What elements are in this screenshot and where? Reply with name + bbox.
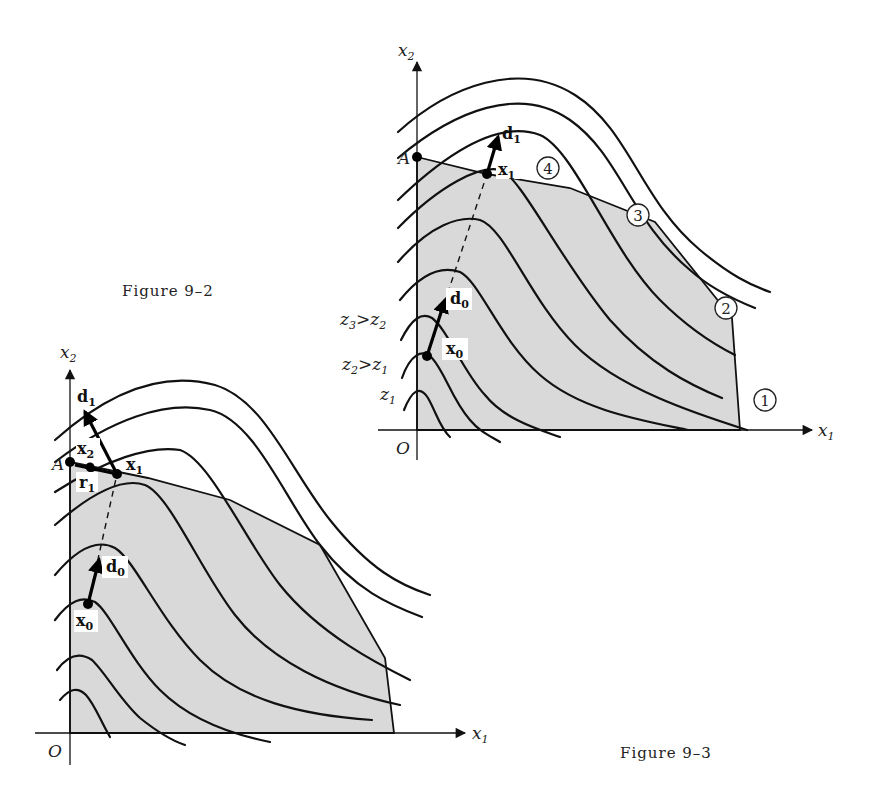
point-x0	[83, 599, 93, 609]
constraint-marker-4: 4	[537, 157, 559, 179]
caption-figure-9-3: Figure 9–3	[620, 744, 712, 762]
svg-text:2: 2	[721, 300, 731, 318]
figure-9-3: x2 x1 O A x1 d1 d0 x0 z3>z2 z2>z1 z1 4 3…	[339, 40, 835, 460]
svg-text:3: 3	[633, 207, 643, 225]
contour-label-z3-gt-z2: z3>z2	[339, 309, 386, 332]
contour-label-z2-gt-z1: z2>z1	[341, 354, 388, 377]
x2-axis-label: x2	[60, 342, 77, 365]
constraint-marker-1: 1	[754, 389, 776, 411]
x2-axis-label: x2	[398, 40, 415, 63]
x1-axis-label: x1	[818, 420, 835, 443]
point-x1	[482, 169, 492, 179]
point-A	[65, 457, 75, 467]
point-x0	[422, 351, 432, 361]
point-A	[412, 152, 422, 162]
x1-axis-label: x1	[472, 723, 489, 746]
constraint-marker-2: 2	[715, 297, 737, 319]
point-A-label: A	[396, 148, 410, 168]
svg-text:1: 1	[760, 392, 770, 410]
caption-figure-9-2: Figure 9–2	[122, 282, 214, 300]
point-x1	[112, 469, 122, 479]
origin-label: O	[396, 438, 410, 458]
vector-d1-label: d1	[77, 387, 96, 409]
figures-canvas: x2 x1 O A x1 d1 d0 x0 z3>z2 z2>z1 z1 4 3…	[0, 0, 878, 801]
contour-label-z1: z1	[379, 384, 396, 407]
point-x1-label: x1	[126, 455, 143, 477]
vector-d1-label: d1	[502, 124, 521, 146]
constraint-marker-3: 3	[627, 204, 649, 226]
origin-label: O	[48, 741, 62, 761]
point-A-label: A	[50, 454, 64, 474]
svg-text:4: 4	[543, 160, 553, 178]
point-x2	[86, 463, 95, 472]
